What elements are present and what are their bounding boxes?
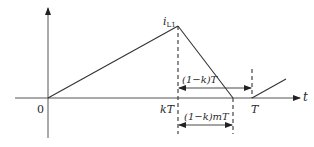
off-interval-label: (1−k)T — [182, 75, 217, 85]
waveform-diagram — [0, 0, 314, 147]
origin-text: 0 — [37, 103, 44, 116]
T-label: T — [251, 104, 258, 115]
t-text: t — [303, 90, 308, 104]
T-text: T — [251, 103, 258, 116]
discharge-interval-text: (1−k)mT — [184, 111, 229, 122]
discharge-interval-label: (1−k)mT — [184, 112, 229, 122]
peak-subscript: L1 — [167, 21, 176, 29]
next-cycle-ramp — [252, 79, 286, 98]
t-axis-label: t — [303, 91, 308, 103]
off-interval-text: (1−k)T — [182, 74, 217, 85]
peak-current-label: iL1 — [163, 16, 176, 29]
kT-label: kT — [160, 104, 174, 115]
rising-ramp — [48, 26, 178, 98]
falling-ramp — [178, 26, 233, 98]
kT-text: kT — [160, 103, 174, 116]
origin-label: 0 — [37, 104, 44, 115]
